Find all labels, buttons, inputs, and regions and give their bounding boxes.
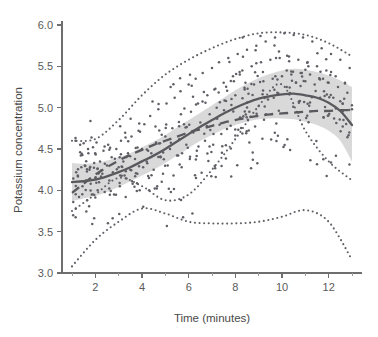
- dotted-curve-dot: [234, 138, 236, 140]
- data-point: [185, 144, 188, 147]
- data-point: [242, 115, 245, 118]
- dotted-curve-dot: [316, 212, 318, 214]
- dotted-curve-dot: [249, 222, 251, 224]
- data-point: [210, 151, 213, 154]
- dotted-curve-dot: [129, 213, 131, 215]
- data-point: [91, 223, 94, 226]
- data-point: [254, 125, 257, 128]
- y-tick-label: 4.0: [38, 184, 53, 196]
- data-point: [109, 147, 112, 150]
- data-point: [189, 156, 192, 159]
- data-point: [146, 148, 149, 151]
- data-point: [165, 123, 168, 126]
- data-point: [339, 100, 342, 103]
- dotted-curve-dot: [266, 93, 268, 95]
- data-point: [245, 116, 248, 119]
- dotted-curve-dot: [237, 135, 239, 137]
- data-point: [158, 142, 161, 145]
- data-point: [208, 113, 211, 116]
- data-point: [122, 160, 125, 163]
- data-point: [316, 52, 319, 55]
- dotted-curve-dot: [328, 42, 330, 44]
- data-point: [288, 86, 291, 89]
- data-point: [311, 40, 314, 43]
- data-point: [120, 153, 123, 156]
- y-tick-label: 6.0: [38, 19, 53, 31]
- dotted-curve-dot: [333, 227, 335, 229]
- dotted-curve-dot: [159, 211, 161, 213]
- data-point: [333, 117, 336, 120]
- data-point: [163, 158, 166, 161]
- data-point: [209, 129, 212, 132]
- data-point: [194, 174, 197, 177]
- dotted-curve-dot: [71, 265, 73, 267]
- data-point: [114, 158, 117, 161]
- data-point: [127, 140, 130, 143]
- data-point: [80, 166, 83, 169]
- data-point: [118, 182, 121, 185]
- dotted-curve-dot: [286, 90, 288, 92]
- dotted-curve-dot: [335, 231, 337, 233]
- data-point: [186, 126, 189, 129]
- data-point: [344, 82, 347, 85]
- dotted-curve-dot: [169, 200, 171, 202]
- data-point: [180, 166, 183, 169]
- dotted-curve-dot: [71, 140, 73, 142]
- data-point: [238, 71, 241, 74]
- data-point: [226, 89, 229, 92]
- data-point: [146, 162, 149, 165]
- data-point: [222, 82, 225, 85]
- data-point: [288, 60, 291, 63]
- dotted-curve-dot: [156, 196, 158, 198]
- data-point: [178, 163, 181, 166]
- data-point: [107, 144, 110, 147]
- dotted-curve-dot: [155, 209, 157, 211]
- data-point: [96, 167, 99, 170]
- data-point: [323, 95, 326, 98]
- data-point: [192, 96, 195, 99]
- data-point: [217, 91, 220, 94]
- data-point: [87, 148, 90, 151]
- data-point: [134, 158, 137, 161]
- dotted-curve-dot: [348, 54, 350, 56]
- dotted-curve-dot: [212, 168, 214, 170]
- data-point: [74, 216, 77, 219]
- dotted-curve-dot: [105, 131, 107, 133]
- data-point: [225, 144, 228, 147]
- data-point: [309, 159, 312, 162]
- dotted-curve-dot: [212, 222, 214, 224]
- data-point: [152, 168, 155, 171]
- dotted-curve-dot: [285, 214, 287, 216]
- dotted-curve-dot: [311, 36, 313, 38]
- data-point: [82, 142, 85, 145]
- dotted-curve-dot: [151, 85, 153, 87]
- y-tick-label: 5.0: [38, 102, 53, 114]
- dotted-curve-dot: [332, 45, 334, 47]
- data-point: [230, 147, 233, 150]
- data-point: [162, 173, 165, 176]
- data-point: [79, 151, 82, 154]
- data-point: [241, 69, 244, 72]
- data-point: [306, 102, 309, 105]
- dotted-curve-dot: [280, 83, 282, 85]
- dotted-curve-dot: [344, 247, 346, 249]
- data-point: [308, 105, 311, 108]
- data-point: [295, 81, 298, 84]
- data-point: [103, 191, 106, 194]
- data-point: [157, 108, 160, 111]
- dotted-curve-dot: [80, 255, 82, 257]
- dotted-curve-dot: [322, 154, 324, 156]
- dotted-curve-dot: [176, 217, 178, 219]
- data-point: [173, 188, 176, 191]
- dotted-curve-dot: [160, 198, 162, 200]
- data-point: [251, 151, 254, 154]
- data-point: [250, 167, 253, 170]
- data-point: [94, 176, 97, 179]
- dotted-curve-dot: [203, 222, 205, 224]
- dotted-curve-dot: [168, 214, 170, 216]
- data-point: [244, 81, 247, 84]
- dotted-curve-dot: [104, 185, 106, 187]
- data-point: [178, 125, 181, 128]
- data-point: [235, 73, 238, 76]
- dotted-curve-dot: [261, 32, 263, 34]
